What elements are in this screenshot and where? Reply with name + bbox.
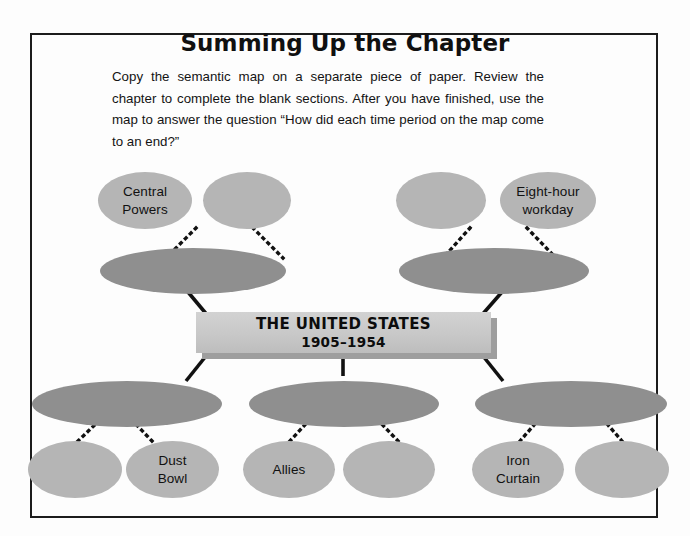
node-branch-bottom-middle[interactable] xyxy=(249,381,439,427)
node-blank-bottom-3[interactable] xyxy=(575,441,669,498)
node-dust-bowl[interactable]: Dust Bowl xyxy=(126,441,219,498)
node-blank-top-2[interactable] xyxy=(396,172,486,229)
node-label: Iron Curtain xyxy=(496,452,540,487)
node-branch-bottom-right[interactable] xyxy=(475,381,667,427)
node-blank-bottom-2[interactable] xyxy=(343,441,435,498)
center-box-united-states[interactable]: THE UNITED STATES 1905–1954 xyxy=(196,312,491,353)
node-label: Allies xyxy=(273,461,306,479)
semantic-map-diagram: Central Powers Eight-hour workday THE UN… xyxy=(0,0,690,536)
center-box-title: THE UNITED STATES xyxy=(256,315,431,333)
node-central-powers[interactable]: Central Powers xyxy=(98,172,192,229)
node-eight-hour-workday[interactable]: Eight-hour workday xyxy=(500,172,596,229)
node-branch-top-left[interactable] xyxy=(100,248,286,294)
node-blank-top-1[interactable] xyxy=(203,172,291,229)
node-label: Dust Bowl xyxy=(158,452,188,487)
node-iron-curtain[interactable]: Iron Curtain xyxy=(472,441,564,498)
node-allies[interactable]: Allies xyxy=(243,441,335,498)
node-blank-bottom-1[interactable] xyxy=(28,441,122,498)
center-box-date-range: 1905–1954 xyxy=(301,334,386,350)
connector-solid xyxy=(186,356,206,381)
node-branch-top-right[interactable] xyxy=(399,248,589,294)
node-label: Eight-hour workday xyxy=(516,183,579,218)
node-label: Central Powers xyxy=(122,183,168,218)
worksheet-page: Summing Up the Chapter Copy the semantic… xyxy=(0,0,690,536)
connector-solid xyxy=(483,356,503,381)
node-branch-bottom-left[interactable] xyxy=(32,381,222,427)
